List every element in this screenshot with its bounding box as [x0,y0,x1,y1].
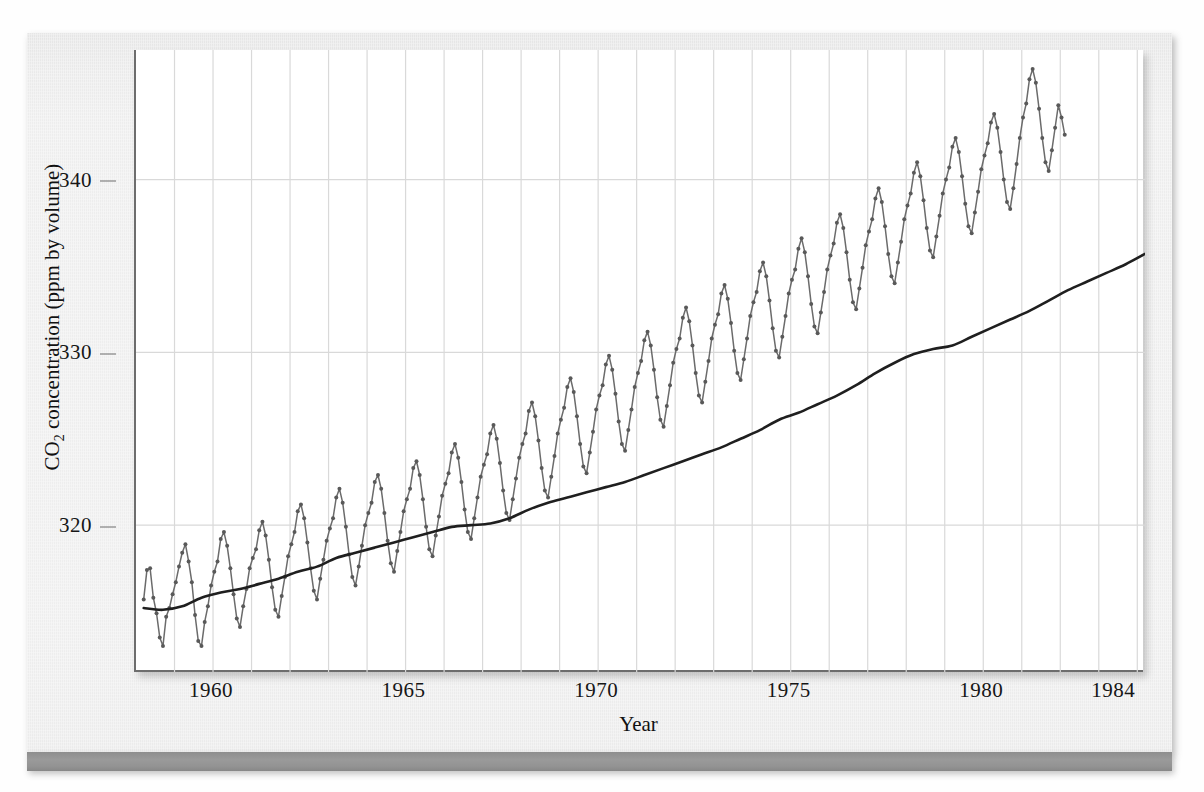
y-tick-mark [100,354,116,355]
x-tick-label-1965: 1965 [382,678,426,703]
x-tick-label-1980: 1980 [959,678,1003,703]
plot-area [134,50,1143,672]
x-tick-label-1960: 1960 [189,678,233,703]
monthly-series-line [144,69,1065,646]
y-tick-mark [100,526,116,527]
y-axis-title-wrapper: CO2 concentration (ppm by volume) [40,17,68,617]
bottom-decorative-rule [27,752,1172,771]
y-axis-title: CO2 concentration (ppm by volume) [40,164,64,471]
x-axis-title: Year [134,712,1143,737]
x-tick-label-1970: 1970 [574,678,618,703]
y-tick-mark [100,181,116,182]
chart-canvas [136,50,1145,672]
x-tick-label-1984: 1984 [1091,678,1135,703]
x-axis-tick-labels: 196019651970197519801984 [134,678,1149,712]
x-tick-label-1975: 1975 [767,678,811,703]
figure-root: 320330340 CO2 concentration (ppm by volu… [0,0,1204,792]
monthly-series-markers [142,67,1067,648]
